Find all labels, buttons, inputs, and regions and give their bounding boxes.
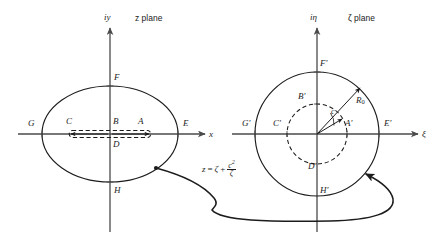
z-plane-group [18, 28, 205, 232]
z-imag-axis-label: iy [104, 13, 111, 22]
zeta-point-G-prime: G′ [242, 119, 251, 128]
equation-fraction: c2 ζ [227, 160, 235, 179]
zeta-imag-axis-label: iη [310, 13, 317, 22]
z-point-E: E [183, 119, 189, 128]
z-point-G: G [28, 119, 35, 128]
equation-numerator: c2 [227, 160, 235, 170]
zeta-plane-title: ζ plane [348, 14, 375, 23]
z-plane-title: z plane [135, 14, 162, 23]
zeta-point-F-prime: F′ [320, 59, 328, 68]
z-real-axis-label: x [209, 130, 213, 139]
z-slot-point-D: D [113, 140, 120, 149]
zeta-point-B-prime: B′ [298, 92, 306, 101]
equation-plus: + [218, 164, 227, 174]
zeta-radius-R0-label: R0 [356, 96, 365, 106]
mapping-connector [154, 166, 393, 221]
zeta-radius-R0-subscript: 0 [362, 98, 365, 105]
figure-canvas: z plane iy x F H G E A B C D ζ plane iη … [0, 0, 445, 243]
zeta-point-E-prime: E′ [384, 119, 392, 128]
zeta-radius-R0-arrow [317, 88, 360, 134]
zeta-point-C-prime: C′ [273, 119, 281, 128]
z-slot-point-C: C [66, 117, 72, 126]
mapping-equation: z=ζ+ c2 ζ [202, 160, 236, 179]
z-point-H: H [114, 186, 121, 195]
zeta-point-H-prime: H′ [320, 186, 329, 195]
z-slot-point-B: B [113, 117, 119, 126]
zeta-point-D-prime: D′ [308, 162, 317, 171]
z-point-F: F [114, 73, 120, 82]
zeta-point-A-prime: A′ [345, 119, 353, 128]
z-slot-point-A: A [138, 117, 144, 126]
equation-lhs: z [202, 164, 206, 174]
equation-numerator-exponent: 2 [232, 159, 235, 165]
zeta-real-axis-label: ξ [422, 130, 426, 139]
zeta-radius-c-label: c [331, 108, 335, 116]
equation-equals: = [206, 164, 215, 174]
equation-denominator: ζ [227, 169, 235, 178]
connector-curve [156, 168, 393, 221]
